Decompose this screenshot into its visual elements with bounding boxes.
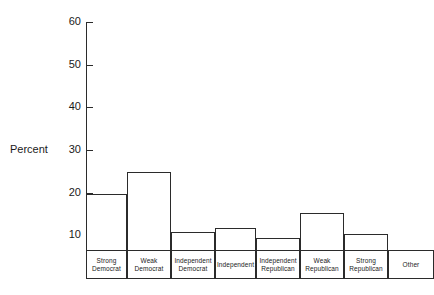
y-axis-tick-label: 30 [57, 144, 81, 155]
bar: IndependentDemocrat [171, 232, 215, 279]
bar-category-label: StrongDemocrat [86, 250, 127, 279]
bar-category-label: WeakDemocrat [127, 250, 171, 279]
bar: StrongRepublican [344, 234, 388, 279]
bar-category-label-text: StrongDemocrat [92, 257, 121, 273]
x-axis-line [86, 278, 411, 279]
bar-category-label: IndependentRepublican [256, 250, 300, 279]
bar-category-label: Independent [215, 250, 256, 279]
bar-category-label-text: Independent [217, 261, 254, 269]
bar-category-label-text: IndependentDemocrat [174, 257, 211, 273]
y-axis-tick-label: 40 [57, 101, 81, 112]
bar-category-label-text: IndependentRepublican [259, 257, 296, 273]
y-axis-tick-label: 50 [57, 59, 81, 70]
bar: WeakRepublican [300, 213, 344, 279]
bar: IndependentRepublican [256, 238, 300, 279]
y-axis-tick-label: 10 [57, 229, 81, 240]
y-axis-tick-label: 20 [57, 187, 81, 198]
bar-category-label-text: StrongRepublican [349, 257, 383, 273]
y-axis-tick-label: 60 [57, 16, 81, 27]
bar-category-label: IndependentDemocrat [171, 250, 215, 279]
bar-category-label-text: Other [403, 261, 420, 269]
bar: StrongDemocrat [86, 194, 127, 279]
bar-category-label-text: WeakDemocrat [135, 257, 164, 273]
bar-category-label: Other [388, 250, 434, 279]
bar-category-label: WeakRepublican [300, 250, 344, 279]
bar-category-label: StrongRepublican [344, 250, 388, 279]
bar: Independent [215, 228, 256, 279]
bar-category-label-text: WeakRepublican [305, 257, 339, 273]
plot-area: StrongDemocratWeakDemocratIndependentDem… [86, 22, 410, 279]
bar: WeakDemocrat [127, 172, 171, 279]
